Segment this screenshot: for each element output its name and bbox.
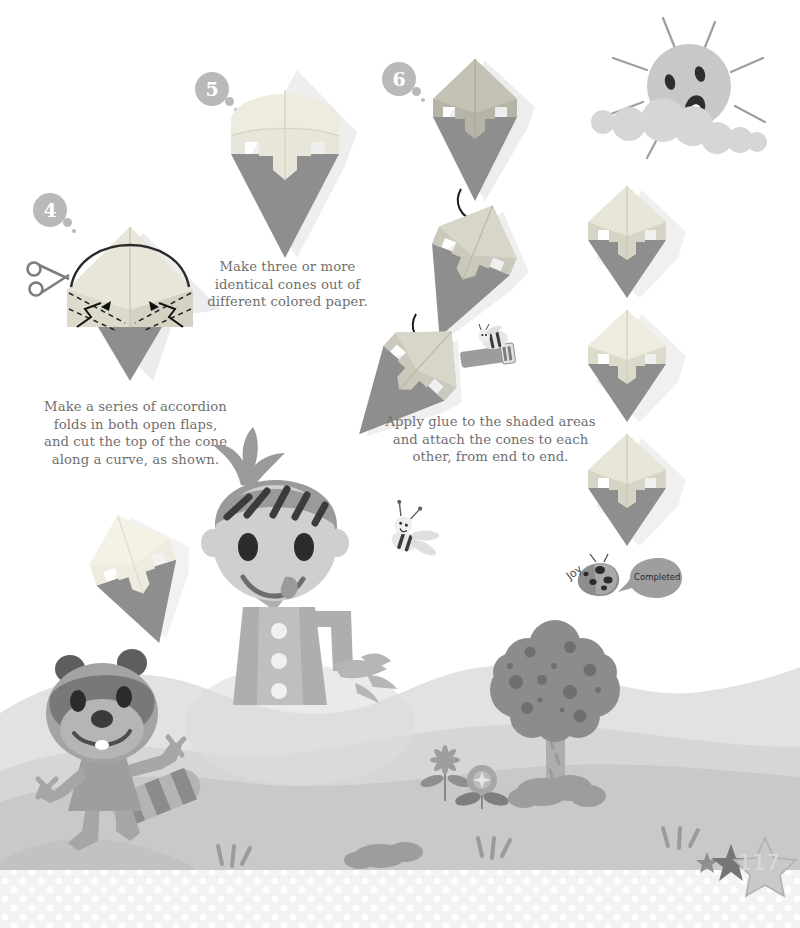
badge-speech-label: Completed [634,572,680,582]
glue-stick-icon [455,322,525,377]
step-4-diagram [25,205,235,405]
raccoon-character [20,645,220,865]
footer-dot-strip [0,870,800,928]
sun-breath-bubbles [591,98,767,154]
sun-character [585,10,780,175]
page-number: 117 [738,850,780,875]
page-root: 4 [0,0,800,928]
finished-cone-garland [560,180,710,580]
step-5-caption: Make three or more identical cones out o… [205,258,370,311]
flowers [420,735,530,815]
small-star [696,852,718,873]
scissors-icon [28,263,70,296]
bee-character [375,505,445,575]
step-5-diagram [205,62,365,282]
step-6-number: 6 [382,62,416,96]
